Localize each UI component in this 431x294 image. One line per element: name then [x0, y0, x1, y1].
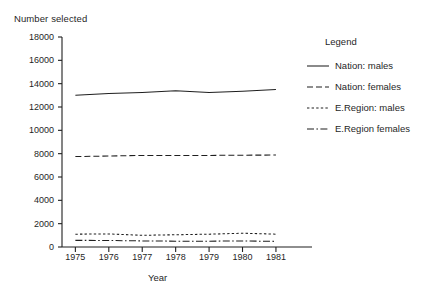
legend-title: Legend [325, 36, 431, 47]
legend: Legend Nation: malesNation: femalesE.Reg… [325, 36, 431, 140]
legend-item-label: Nation: males [335, 60, 393, 71]
series-line-2 [75, 155, 276, 157]
x-axis-title: Year [148, 272, 167, 283]
legend-item[interactable]: E.Region: males [325, 98, 431, 117]
legend-item-label: E.Region: males [335, 102, 405, 113]
legend-item[interactable]: Nation: males [325, 56, 431, 75]
legend-item-label: Nation: females [335, 81, 401, 92]
line-chart: Number selected 020004000600080001000012… [0, 0, 431, 294]
legend-line-swatch [307, 124, 329, 134]
legend-line-swatch [307, 61, 329, 71]
legend-item[interactable]: E.Region females [325, 119, 431, 138]
legend-line-swatch [307, 82, 329, 92]
series-line-1 [75, 90, 276, 96]
legend-line-swatch [307, 103, 329, 113]
legend-item-label: E.Region females [335, 123, 410, 134]
series-line-4 [75, 240, 276, 241]
legend-item[interactable]: Nation: females [325, 77, 431, 96]
series-line-3 [75, 233, 276, 235]
